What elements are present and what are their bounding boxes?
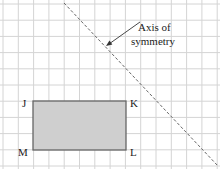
rectangle-jklm — [33, 101, 126, 150]
annotation-line-2: symmetry — [131, 35, 175, 47]
vertex-label-m: M — [18, 146, 28, 158]
symmetry-diagram: JKLM Axis of symmetry — [0, 0, 220, 169]
vertex-label-k: K — [130, 97, 138, 109]
annotation-line-1: Axis of — [138, 21, 171, 33]
vertex-label-l: L — [130, 146, 137, 158]
arrowhead-icon — [106, 40, 112, 46]
vertex-label-j: J — [22, 97, 27, 109]
